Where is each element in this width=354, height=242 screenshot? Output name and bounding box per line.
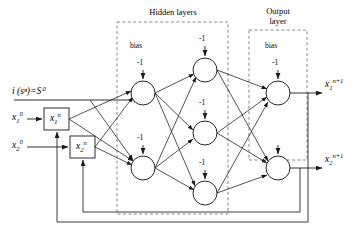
output-lines <box>290 93 322 168</box>
bias-value-h12: -1 <box>137 134 143 142</box>
bias-value-h22: -1 <box>199 99 205 107</box>
output2-sub: 2 <box>329 159 332 166</box>
hidden-layers-title: Hidden layers <box>133 8 213 17</box>
figure-canvas: Hidden layers Output layer bias bias -1 … <box>0 0 354 242</box>
output1-sub: 1 <box>329 84 332 91</box>
h11-to-h22 <box>155 93 193 130</box>
x1-initial-sup: 0 <box>19 110 22 117</box>
output2-label: x2n+1 <box>325 153 343 167</box>
h22-to-o1 <box>217 97 267 133</box>
state-to-h12 <box>90 100 133 160</box>
bias-value-h11: -1 <box>137 59 143 67</box>
output-layer-title-line2: layer <box>252 17 304 26</box>
hidden-node-h12 <box>131 156 155 180</box>
neuron-nodes <box>131 58 290 205</box>
fanout-lines <box>69 91 133 165</box>
x1-initial-label: x10 <box>12 111 23 125</box>
state-input-label: i (sⁿ)=S⁰ <box>12 87 45 97</box>
bias-label-hidden: bias <box>130 42 142 50</box>
hidden-node-h22 <box>193 121 217 145</box>
x2-initial-sub: 2 <box>16 145 19 152</box>
hidden-node-h11 <box>131 81 155 105</box>
x2-to-h12 <box>95 147 132 165</box>
bias-value-h21: -1 <box>199 35 205 43</box>
x2-state-sub: 2 <box>80 146 83 153</box>
h12-to-h23 <box>155 168 194 190</box>
hidden-col1-to-col2 <box>155 74 196 190</box>
h12-to-h22 <box>155 139 193 168</box>
output2-sup: n+1 <box>332 152 343 159</box>
bias-value-o1: -1 <box>272 59 278 67</box>
h23-to-o2 <box>217 175 267 193</box>
x1-to-h11 <box>69 91 131 119</box>
hidden-node-h23 <box>193 181 217 205</box>
x2-initial-label: x20 <box>12 139 23 153</box>
x2-initial-sup: 0 <box>19 138 22 145</box>
bias-label-output: bias <box>265 42 277 50</box>
output-node-o1 <box>266 81 290 105</box>
x2-state-sup: n <box>83 139 86 146</box>
output-layer-title-line1: Output <box>252 7 304 16</box>
output-node-o2 <box>266 156 290 180</box>
hidden-col2-to-output <box>217 70 268 193</box>
hidden-node-h21 <box>193 58 217 82</box>
x1-state-box-label: x1n <box>50 112 61 126</box>
x1-state-sup: n <box>57 111 60 118</box>
x1-state-sub: 1 <box>54 118 57 125</box>
h21-to-o1 <box>217 70 267 89</box>
h12-to-h21 <box>155 77 196 168</box>
x2-state-box-label: x2n <box>76 140 87 154</box>
h11-to-h21 <box>155 74 194 93</box>
output1-label: x1n+1 <box>325 78 343 92</box>
bias-value-h23: -1 <box>199 159 205 167</box>
x1-initial-sub: 1 <box>16 117 19 124</box>
output1-sup: n+1 <box>332 77 343 84</box>
h11-to-h23 <box>155 93 195 186</box>
